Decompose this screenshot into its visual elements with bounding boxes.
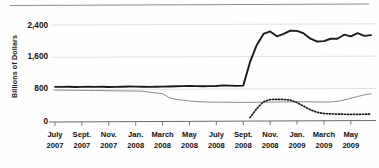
x-tick-label-11: May2009 bbox=[329, 130, 373, 151]
chart-figure: Billions of Dollars 2,400 1,600 800 0 Ju… bbox=[0, 0, 379, 168]
data-series-group bbox=[55, 31, 371, 118]
series-total-assets bbox=[55, 31, 371, 87]
x-tick-month: May bbox=[329, 130, 373, 141]
series-securities-held-outright bbox=[55, 90, 371, 102]
gridline-1600 bbox=[52, 56, 376, 57]
y-gridlines bbox=[52, 24, 376, 90]
x-tick-year: 2009 bbox=[329, 141, 373, 152]
x-axis-line bbox=[49, 121, 376, 123]
axis-baseline bbox=[49, 121, 376, 123]
gridline-2400 bbox=[52, 24, 376, 25]
gridline-800 bbox=[52, 88, 376, 89]
